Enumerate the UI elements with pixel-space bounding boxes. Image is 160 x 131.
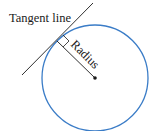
tangent-radius-diagram: Tangent line Radius bbox=[0, 0, 160, 131]
center-point bbox=[93, 76, 97, 80]
tangent-line-label: Tangent line bbox=[9, 11, 71, 25]
radius-label: Radius bbox=[68, 37, 103, 72]
right-angle-marker bbox=[63, 35, 69, 47]
